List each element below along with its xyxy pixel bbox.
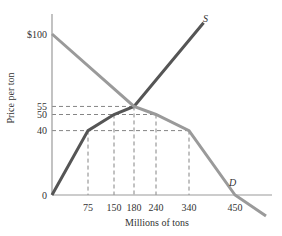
y-axis-title: Price per ton xyxy=(5,72,16,123)
x-tick-label: 240 xyxy=(149,202,164,213)
supply-curve-label: S xyxy=(203,13,208,24)
x-tick-label: 180 xyxy=(127,202,142,213)
x-tick-label: 340 xyxy=(182,202,197,213)
supply-demand-chart: 751501802403404500405055$100 Price per t… xyxy=(0,0,282,236)
y-tick-label: $100 xyxy=(27,29,47,40)
y-tick-label: 0 xyxy=(42,190,47,201)
x-axis-title: Millions of tons xyxy=(125,217,189,228)
x-tick-label: 450 xyxy=(228,202,243,213)
supply-curve xyxy=(52,23,204,195)
y-tick-label: 55 xyxy=(37,101,47,112)
demand-curve xyxy=(52,34,266,216)
demand-curve-label: D xyxy=(228,177,237,188)
tick-labels: 751501802403404500405055$100 xyxy=(27,29,243,214)
x-tick-label: 75 xyxy=(83,202,93,213)
x-tick-label: 150 xyxy=(107,202,122,213)
y-tick-label: 40 xyxy=(37,125,47,136)
